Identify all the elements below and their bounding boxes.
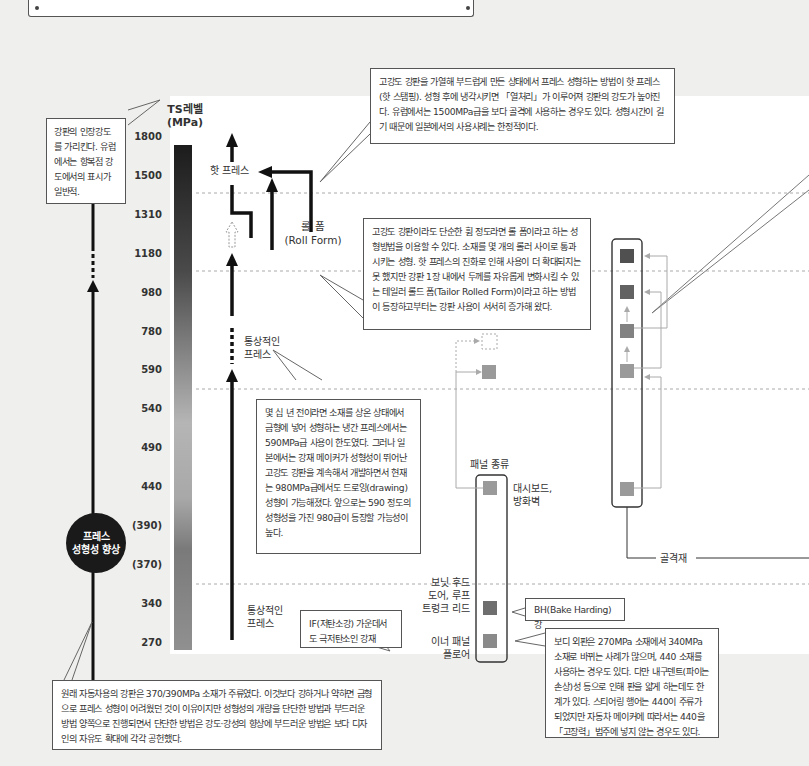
- scale-title-line1: TS레벨: [160, 103, 210, 116]
- tick-270: 270: [122, 637, 162, 648]
- tick-1500: 1500: [122, 170, 162, 181]
- scale-title-line2: (MPa): [160, 116, 210, 129]
- label-dashboard: 대시보드, 방화벽: [513, 482, 552, 508]
- callout-ts-note: 강판의 인장강도를 가리킨다. 유럽에서는 항복점 강도에서의 표시가 일반적.: [46, 118, 126, 204]
- label-hood-line3: 트렁크 리드: [400, 602, 470, 615]
- label-dashboard-line2: 방화벽: [513, 495, 552, 508]
- square-panel-590: [482, 365, 496, 379]
- label-panel-type: 패널 종류: [470, 458, 509, 471]
- tick-370: (370): [122, 559, 162, 570]
- label-normal-press-lower: 통상적인 프레스: [247, 604, 283, 630]
- label-normal-press-lower-line2: 프레스: [247, 617, 283, 630]
- label-roll-form: 롤 폼 (Roll Form): [283, 219, 343, 247]
- callout-history: 원래 자동차용의 강판은 370/390MPa 소재가 주류였다. 이것보다 강…: [52, 680, 382, 750]
- tick-490: 490: [122, 442, 162, 453]
- label-roll-form-line2: (Roll Form): [283, 233, 343, 247]
- label-frame: 골격재: [660, 552, 687, 565]
- label-hood-line1: 보닛 후드: [400, 576, 470, 589]
- tick-780: 780: [122, 326, 162, 337]
- label-inner-line2: 플로어: [410, 648, 470, 661]
- tick-1180: 1180: [122, 248, 162, 259]
- tick-440: 440: [122, 481, 162, 492]
- square-frame-590: [620, 364, 634, 378]
- callout-if-steel: IF(저탄소강) 가운데서도 극저탄소인 강재: [300, 610, 402, 648]
- square-frame-780: [620, 324, 634, 338]
- square-hood: [483, 601, 497, 615]
- callout-roll-form: 고강도 강판이라도 단순한 휨 정도라면 롤 폼이라고 하는 성형방법을 이용할…: [363, 218, 591, 330]
- label-normal-press-upper-line2: 프레스: [244, 348, 280, 361]
- badge-line2: 성형성 향상: [66, 543, 126, 556]
- label-roll-form-line1: 롤 폼: [283, 219, 343, 233]
- label-hood-line2: 도어, 루프: [400, 589, 470, 602]
- callout-bh-steel: BH(Bake Harding) 강: [525, 598, 625, 621]
- square-dashboard: [483, 481, 497, 495]
- scale-title: TS레벨 (MPa): [160, 103, 210, 129]
- label-inner-panel: 이너 패널 플로어: [410, 635, 470, 661]
- label-normal-press-upper: 통상적인 프레스: [244, 335, 280, 361]
- square-frame-980: [620, 285, 634, 299]
- tick-1310: 1310: [122, 209, 162, 220]
- square-inner: [483, 634, 497, 648]
- label-hood-door-roof: 보닛 후드 도어, 루프 트렁크 리드: [400, 576, 470, 615]
- badge-line1: 프레스: [66, 530, 126, 543]
- callout-hot-press: 고강도 강판을 가열해 부드럽게 만든 상태에서 프레스 성형하는 방법이 핫 …: [370, 68, 675, 144]
- tick-340: 340: [122, 598, 162, 609]
- tick-1800: 1800: [122, 131, 162, 142]
- label-normal-press-lower-line1: 통상적인: [247, 604, 283, 617]
- tick-590: 590: [122, 364, 162, 375]
- label-hot-press: 핫 프레스: [210, 164, 249, 177]
- tick-540: 540: [122, 403, 162, 414]
- label-inner-line1: 이너 패널: [410, 635, 470, 648]
- tick-980: 980: [122, 287, 162, 298]
- label-dashboard-line1: 대시보드,: [513, 482, 552, 495]
- square-frame-1180: [620, 249, 634, 263]
- tick-390: (390): [122, 520, 162, 531]
- callout-cold-press: 몇 십 년 전이라면 소재를 상온 상태에서 금형에 넣어 성형하는 냉간 프레…: [256, 399, 421, 554]
- callout-body-outer: 보디 외판은 270MPa 소재에서 340MPa 소재로 바뀌는 사례가 많으…: [545, 628, 719, 738]
- label-normal-press-upper-line1: 통상적인: [244, 335, 280, 348]
- square-frame-440: [620, 482, 634, 496]
- badge-press-formability: 프레스 성형성 향상: [66, 530, 126, 556]
